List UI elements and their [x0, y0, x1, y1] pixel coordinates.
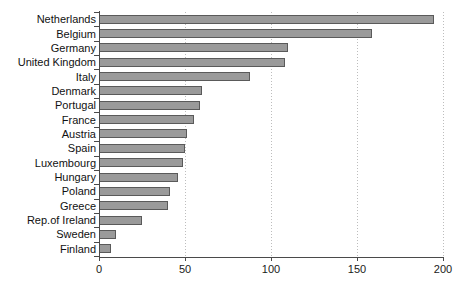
bar: [99, 58, 285, 67]
category-label: Austria: [62, 128, 96, 140]
category-label: France: [62, 114, 96, 126]
bar: [99, 72, 250, 81]
bar: [99, 158, 183, 167]
x-tick-label-200: 200: [423, 263, 462, 276]
category-label: Spain: [68, 142, 96, 154]
bar: [99, 101, 200, 110]
bar: [99, 230, 116, 239]
x-tick-200: [443, 257, 444, 261]
x-tick-label-100: 100: [251, 263, 291, 276]
category-label: Netherlands: [37, 13, 96, 25]
category-label: Portugal: [55, 99, 96, 111]
x-tick-label-0: 0: [79, 263, 119, 276]
x-tick-label-150: 150: [337, 263, 377, 276]
bar: [99, 86, 202, 95]
category-label: Hungary: [54, 171, 96, 183]
bar: [99, 115, 194, 124]
x-tick-100: [271, 257, 272, 261]
category-label: Denmark: [51, 85, 96, 97]
bar: [99, 244, 111, 253]
x-tick-label-50: 50: [165, 263, 205, 276]
bar: [99, 144, 185, 153]
category-label: Rep.of Ireland: [27, 214, 96, 226]
category-label: Luxembourg: [35, 157, 96, 169]
y-axis-line: [99, 11, 100, 257]
bar: [99, 187, 170, 196]
category-label: Finland: [60, 243, 96, 255]
category-label: Germany: [51, 42, 96, 54]
bar: [99, 201, 168, 210]
x-tick-150: [357, 257, 358, 261]
gridline-150: [357, 12, 358, 257]
category-label: Greece: [60, 200, 96, 212]
bar-chart: NetherlandsBelgiumGermanyUnited KingdomI…: [0, 0, 462, 287]
x-tick-50: [185, 257, 186, 261]
gridline-200: [443, 12, 444, 257]
bar: [99, 43, 288, 52]
bar: [99, 173, 178, 182]
category-label: Poland: [62, 185, 96, 197]
category-label: Belgium: [56, 28, 96, 40]
bar: [99, 29, 372, 38]
bar: [99, 129, 187, 138]
bar: [99, 15, 434, 24]
category-label: Italy: [76, 71, 96, 83]
x-tick-0: [99, 257, 100, 261]
category-label: United Kingdom: [18, 56, 96, 68]
bar: [99, 216, 142, 225]
category-label: Sweden: [56, 228, 96, 240]
